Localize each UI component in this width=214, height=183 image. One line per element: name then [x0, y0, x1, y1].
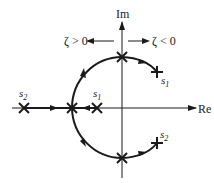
real-axis-arrow-icon [188, 105, 197, 111]
imag-axis-arrow-icon [119, 21, 125, 30]
imaginary-axis [119, 21, 125, 178]
direction-indicator-right [128, 38, 150, 44]
zeta-negative-label: ζ < 0 [152, 34, 176, 48]
locus-arrow-icon [50, 105, 58, 111]
imag-axis-label: Im [116, 7, 130, 21]
arrow-right-icon [142, 38, 150, 44]
locus-arrow-icon [82, 105, 90, 111]
real-axis-label: Re [198, 102, 211, 116]
direction-indicator-left [86, 38, 114, 44]
real-axis-locus [24, 105, 97, 111]
zeta-positive-label: ζ > 0 [64, 34, 88, 48]
s1-real-label: s1 [93, 87, 101, 102]
s2-rhp-label: s2 [160, 128, 168, 143]
root-locus-diagram: Re Im ζ > 0 ζ < 0 s2 [0, 0, 214, 183]
s1-rhp-label: s1 [161, 74, 169, 89]
s2-real-label: s2 [19, 87, 27, 102]
